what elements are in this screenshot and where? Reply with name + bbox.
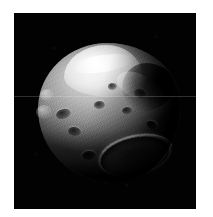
asteroid-image-frame (14, 13, 196, 209)
page-root (0, 0, 213, 217)
horizontal-scan-line (14, 96, 196, 97)
